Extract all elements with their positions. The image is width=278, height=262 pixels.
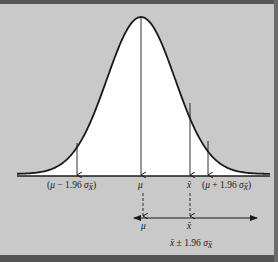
xbar-label: x̄ xyxy=(186,180,192,190)
diagram-svg: (μ − 1.96 σx̄) μ x̄ (μ + 1.96 σx̄) μ x̄ … xyxy=(0,0,278,262)
right-border xyxy=(274,0,278,262)
curve-area xyxy=(17,17,270,176)
interval-mu-label: μ xyxy=(140,221,146,231)
normal-distribution-diagram: (μ − 1.96 σx̄) μ x̄ (μ + 1.96 σx̄) μ x̄ … xyxy=(0,0,278,262)
lower-bound-label: (μ − 1.96 σx̄) xyxy=(47,180,96,192)
upper-bound-label: (μ + 1.96 σx̄) xyxy=(202,180,251,192)
mu-label: μ xyxy=(137,180,143,190)
bottom-border xyxy=(0,255,278,262)
interval-xbar-label: x̄ xyxy=(186,221,192,231)
top-border xyxy=(0,0,278,4)
interval-caption: x̄ ± 1.96 σx̄ xyxy=(169,238,213,250)
